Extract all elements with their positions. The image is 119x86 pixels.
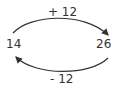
right-value: 26	[96, 38, 111, 50]
top-arrow	[13, 18, 108, 35]
bottom-arrow-label: - 12	[50, 73, 73, 85]
top-arrow-label: + 12	[48, 6, 77, 18]
bottom-arrow	[16, 57, 108, 71]
left-value: 14	[6, 38, 21, 50]
